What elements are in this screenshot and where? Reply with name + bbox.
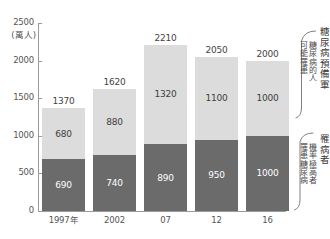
bar-segment-lower[interactable]: 890 — [144, 144, 187, 211]
bar-segment-lower[interactable]: 690 — [42, 159, 85, 211]
bar-segment-lower-label: 690 — [42, 180, 85, 190]
bar-segment-upper[interactable]: 880 — [93, 89, 136, 155]
bar-segment-upper-label: 880 — [93, 117, 136, 127]
bar-group[interactable]: 89013202210 — [144, 45, 187, 211]
bar-segment-upper[interactable]: 1000 — [246, 61, 289, 136]
bar-group[interactable]: 100010002000 — [246, 61, 289, 211]
legend-lower-sub-line-1: 罹患糖尿病 — [298, 143, 307, 205]
bar-segment-upper-label: 680 — [42, 129, 85, 139]
bar-total-label: 2210 — [138, 33, 193, 43]
bar-segment-upper-label: 1320 — [144, 89, 187, 99]
legend-lower-title: 罹病者 — [319, 134, 330, 166]
bar-group[interactable]: 95011002050 — [195, 57, 238, 211]
bar-segment-lower-label: 890 — [144, 173, 187, 183]
chart-legend: 糖尿病預備軍 可能罹患 糖尿病的人 罹病者 罹患糖尿病 機率極高者 — [289, 0, 328, 239]
bar-total-label: 1620 — [87, 77, 142, 87]
bar-segment-upper[interactable]: 1320 — [144, 45, 187, 144]
bar-segment-upper[interactable]: 1100 — [195, 57, 238, 140]
bar-segment-upper[interactable]: 680 — [42, 108, 85, 159]
legend-lower-sub-line-2: 機率極高者 — [307, 143, 316, 205]
legend-upper-sub-line-2: 糖尿病的人 — [307, 41, 316, 103]
legend-upper-title: 糖尿病預備軍 — [319, 27, 330, 90]
bar-segment-lower-label: 950 — [195, 170, 238, 180]
bar-segment-upper-label: 1100 — [195, 93, 238, 103]
bar-total-label: 2050 — [189, 45, 244, 55]
legend-upper-sub-line-1: 可能罹患 — [298, 41, 307, 103]
bar-total-label: 2000 — [240, 49, 295, 59]
bar-total-label: 1370 — [36, 96, 91, 106]
bar-segment-upper-label: 1000 — [246, 93, 289, 103]
bar-segment-lower-label: 1000 — [246, 168, 289, 178]
bar-group[interactable]: 6906801370 — [42, 108, 85, 211]
bar-segment-lower-label: 740 — [93, 178, 136, 188]
bar-segment-lower[interactable]: 950 — [195, 140, 238, 211]
bar-group[interactable]: 7408801620 — [93, 89, 136, 211]
bar-segment-lower[interactable]: 740 — [93, 155, 136, 211]
bar-segment-lower[interactable]: 1000 — [246, 136, 289, 211]
